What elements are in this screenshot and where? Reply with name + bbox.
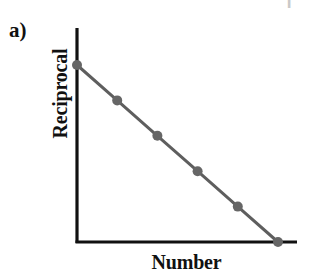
data-point — [273, 237, 283, 247]
line-chart — [0, 0, 309, 280]
figure-panel: a) I Reciprocal Number — [0, 0, 309, 280]
data-point — [152, 131, 162, 141]
data-point — [112, 95, 122, 105]
series-line — [77, 65, 278, 242]
data-point — [233, 202, 243, 212]
data-point — [193, 166, 203, 176]
y-axis-label: Reciprocal — [49, 31, 72, 156]
x-axis-label: Number — [76, 251, 297, 274]
data-point — [72, 60, 82, 70]
